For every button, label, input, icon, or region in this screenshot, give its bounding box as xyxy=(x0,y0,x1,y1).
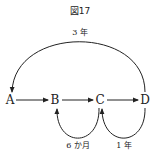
node-b: B xyxy=(51,94,60,106)
edge-d-c-loop xyxy=(102,108,145,138)
node-c: C xyxy=(95,94,104,106)
diagram-figure: 図17 3 年 A B C D 6 か月 1 年 xyxy=(0,0,160,154)
edge-c-b-loop xyxy=(57,108,99,138)
figure-title: 図17 xyxy=(70,7,90,16)
node-a: A xyxy=(6,94,15,106)
node-d: D xyxy=(140,94,150,106)
edge-d-a-arc xyxy=(12,42,145,92)
loop-label-1-year: 1 年 xyxy=(116,142,132,150)
diagram-arrows xyxy=(0,0,160,154)
arc-label-3-years: 3 年 xyxy=(72,29,88,37)
loop-label-6-months: 6 か月 xyxy=(66,142,90,150)
